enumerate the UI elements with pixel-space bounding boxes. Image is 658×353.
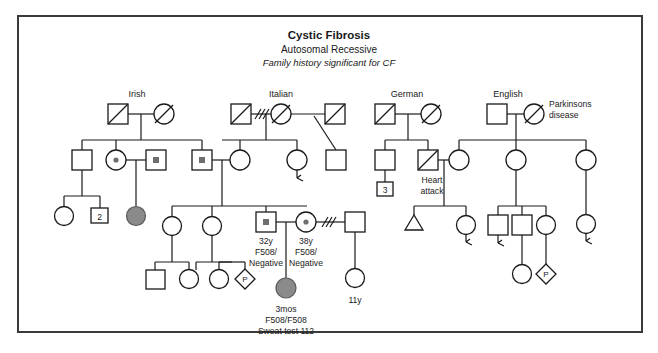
- gen1-english-couple: English Parkinsons disease: [459, 89, 592, 140]
- no-offspring-icon: [498, 235, 504, 246]
- person-g3-male-english-2[interactable]: [512, 215, 532, 235]
- no-offspring-icon: [297, 170, 303, 181]
- person-g3-female-1[interactable]: [163, 217, 182, 236]
- gen3-affected-irish: [127, 207, 146, 226]
- spontaneous-abortion-triangle-icon[interactable]: [405, 215, 423, 230]
- title-block: Cystic Fibrosis Autosomal Recessive Fami…: [263, 29, 397, 68]
- sibship-count-irish: 2: [97, 212, 102, 222]
- family-history-note: Family history significant for CF: [263, 57, 397, 68]
- ethnicity-label-irish: Irish: [128, 89, 145, 99]
- no-offspring-icon: [466, 234, 472, 245]
- person-g3-female-english-4[interactable]: [537, 216, 556, 235]
- inheritance-label: Autosomal Recessive: [281, 44, 378, 55]
- carrier-dot-icon: [153, 157, 159, 163]
- person-g3-female-german[interactable]: [457, 216, 476, 235]
- person-g3-affected-female[interactable]: [127, 207, 146, 226]
- person-g2-male-irish-1[interactable]: [72, 150, 92, 170]
- father-geno-line2: Negative: [249, 258, 283, 268]
- pedigree-svg: Cystic Fibrosis Autosomal Recessive Fami…: [0, 0, 658, 353]
- person-g3-female-english-5[interactable]: [577, 215, 596, 234]
- heart-attack-label-line1: Heart: [421, 175, 443, 185]
- page-title: Cystic Fibrosis: [288, 29, 370, 41]
- person-g3-female-2[interactable]: [203, 217, 222, 236]
- gen3-english-branch: P: [488, 206, 596, 284]
- person-g4-female-1[interactable]: [180, 270, 199, 289]
- person-g2-female-italian-1[interactable]: [230, 150, 250, 170]
- person-mother-ex-husband[interactable]: [345, 212, 365, 232]
- pregnancy-label-right: P: [543, 270, 548, 279]
- ethnicity-label-italian: Italian: [269, 89, 293, 99]
- pedigree-chart: Cystic Fibrosis Autosomal Recessive Fami…: [0, 0, 658, 353]
- sibship-count-german: 3: [383, 185, 388, 195]
- person-g2-female-english-2[interactable]: [506, 150, 526, 170]
- no-offspring-icon: [586, 233, 592, 244]
- carrier-dot-icon: [263, 219, 269, 225]
- mother-geno-line1: F508/: [295, 247, 318, 257]
- gen3-italian-siblings: 32y F508/ Negative: [155, 206, 283, 268]
- gen3-german-branch: [405, 206, 476, 245]
- ethnicity-label-english: English: [493, 89, 523, 99]
- proband-sweat-test: Sweat test 112: [258, 326, 314, 336]
- heart-attack-label-line2: attack: [421, 186, 445, 196]
- gen2-english-branch: [498, 140, 596, 214]
- person-halfsibling-female[interactable]: [346, 269, 365, 288]
- pregnancy-label-left: P: [242, 275, 247, 284]
- person-g4-female-english[interactable]: [513, 265, 532, 284]
- gen1-irish-couple: Irish: [82, 89, 202, 140]
- carrier-dot-icon: [113, 157, 118, 162]
- person-g2-female-italian-2[interactable]: [287, 150, 307, 170]
- person-g4-male-1[interactable]: [146, 270, 165, 289]
- carrier-dot-icon: [199, 157, 205, 163]
- parkinsons-label-line2: disease: [549, 110, 579, 120]
- person-g3-male-english-1[interactable]: [488, 215, 508, 235]
- halfsibling-age-label: 11y: [348, 295, 362, 305]
- mother-age-label: 38y: [299, 236, 314, 246]
- gen2-german-branch: 3 Heart attack: [375, 140, 469, 206]
- person-g3-female-irish[interactable]: [55, 207, 74, 226]
- person-g4-female-2[interactable]: [210, 270, 229, 289]
- ethnicity-label-german: German: [391, 89, 424, 99]
- father-age-label: 32y: [259, 236, 274, 246]
- gen3-irish-left: 2: [55, 196, 109, 226]
- carrier-dot-icon: [303, 219, 308, 224]
- gen4-left-clusters: P: [146, 262, 255, 289]
- gen1-german-couple: German: [375, 89, 441, 140]
- person-proband-affected[interactable]: [276, 278, 296, 298]
- father-geno-line1: F508/: [255, 247, 278, 257]
- person-g2-female-english-1[interactable]: [449, 150, 469, 170]
- person-g2-female-english-3[interactable]: [576, 150, 596, 170]
- parkinsons-label-line1: Parkinsons: [549, 99, 592, 109]
- proband-age-label: 3mos: [275, 304, 296, 314]
- mother-geno-line2: Negative: [289, 258, 323, 268]
- person-g2-male-italian-halfsib[interactable]: [326, 150, 346, 170]
- proband-genotype: F508/F508: [265, 315, 307, 325]
- person-g2-male-german-1[interactable]: [375, 150, 395, 170]
- gen2-irish-branch: [64, 140, 212, 206]
- person-english-grandfather[interactable]: [487, 104, 507, 124]
